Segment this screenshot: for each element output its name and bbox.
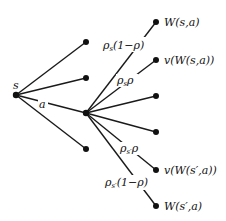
action-node [83, 110, 89, 116]
root-edges [16, 42, 86, 149]
leaf-label-v-W-sprime-a: v(W(s′,a)) [164, 164, 217, 177]
leaf-label-v-W-s-a: v(W(s,a)) [164, 54, 214, 67]
outcome-node-4 [153, 129, 159, 135]
decision-tree-diagram: s a ρs(1−ρ) ρsρ ρs′ρ ρs′(1−ρ) W(s,a) v(W… [0, 0, 226, 221]
root-label: s [13, 79, 19, 92]
outcome-node-v-W-s-a [153, 57, 159, 63]
leaf-node [83, 39, 89, 45]
leaf-node [83, 75, 89, 81]
leaf-label-W-sprime-a: W(s′,a) [164, 200, 202, 213]
edge-to-W-sprime-a [86, 113, 156, 206]
action-label: a [39, 98, 46, 111]
edge-to-outcome-4 [86, 113, 156, 132]
outcome-node-W-s-a [153, 19, 159, 25]
leaf-label-W-s-a: W(s,a) [164, 16, 200, 29]
edge-label-rho-s-1-minus-rho: ρs(1−ρ) [102, 39, 144, 53]
root-node [13, 92, 19, 98]
leaf-node [83, 146, 89, 152]
edge-label-rho-sprime-1-minus-rho: ρs′(1−ρ) [104, 176, 148, 190]
edge-root-to-leaf-3 [16, 95, 86, 149]
outcome-node-v-W-sprime-a [153, 167, 159, 173]
outcome-node-W-sprime-a [153, 203, 159, 209]
edge-root-to-action-node [16, 95, 86, 113]
outcome-node-3 [153, 93, 159, 99]
